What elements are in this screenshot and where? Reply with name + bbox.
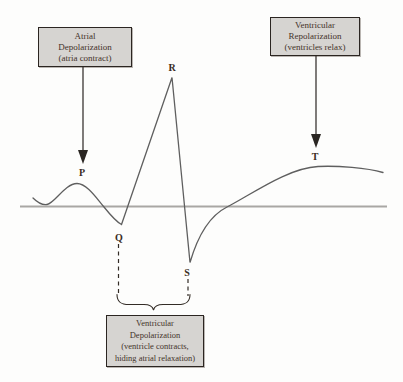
t-wave-label: T — [312, 151, 319, 162]
repolarization-arrowhead-icon — [311, 134, 321, 148]
ventricular-repolarization-box: Ventricular Repolarization (ventricles r… — [270, 17, 360, 56]
box-text-line: (atria contract) — [58, 53, 111, 64]
ecg-trace — [33, 78, 383, 263]
repolarization-arrow — [311, 56, 321, 148]
box-text-line: (ventricles relax) — [284, 42, 345, 53]
q-wave-label: Q — [115, 232, 123, 243]
atrial-depolarization-box: Atrial Depolarization (atria contract) — [38, 27, 132, 67]
s-wave-label: S — [184, 267, 190, 278]
qrs-brace — [117, 295, 190, 311]
atrial-arrow — [78, 67, 88, 164]
r-wave-label: R — [168, 62, 175, 73]
box-text-line: Ventricular — [295, 20, 335, 31]
box-text-line: hiding atrial relaxation) — [115, 353, 195, 365]
box-text-line: (ventricle contracts, — [121, 341, 189, 353]
ventricular-depolarization-box: Ventricular Depolarization (ventricle co… — [106, 315, 204, 367]
box-text-line: Depolarization — [58, 42, 111, 53]
box-text-line: Atrial — [75, 31, 96, 42]
box-text-line: Depolarization — [130, 330, 181, 342]
p-wave-label: P — [79, 167, 85, 178]
box-text-line: Repolarization — [289, 31, 342, 42]
ecg-diagram: Atrial Depolarization (atria contract) V… — [0, 0, 403, 382]
atrial-arrowhead-icon — [78, 150, 88, 164]
box-text-line: Ventricular — [136, 318, 174, 330]
